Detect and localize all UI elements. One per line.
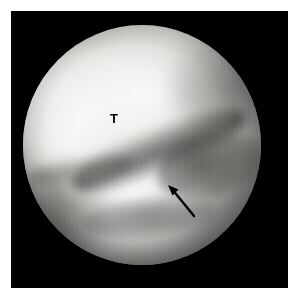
annotation-label-t: T — [110, 112, 118, 125]
endoscopic-field — [23, 25, 261, 265]
annotation-label-d: D — [129, 266, 138, 279]
photo-frame: T D — [11, 11, 288, 288]
screenshot-root: T D — [0, 0, 288, 299]
